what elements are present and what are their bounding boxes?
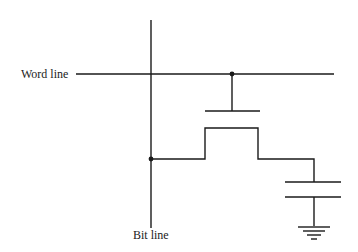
junction-dot-bit-line: [149, 157, 154, 162]
circuit-schematic: [0, 0, 358, 252]
junction-dot-word-line: [230, 72, 235, 77]
bit-line-label: Bit line: [133, 228, 169, 243]
transistor-channel: [151, 128, 314, 182]
word-line-label: Word line: [21, 67, 68, 82]
